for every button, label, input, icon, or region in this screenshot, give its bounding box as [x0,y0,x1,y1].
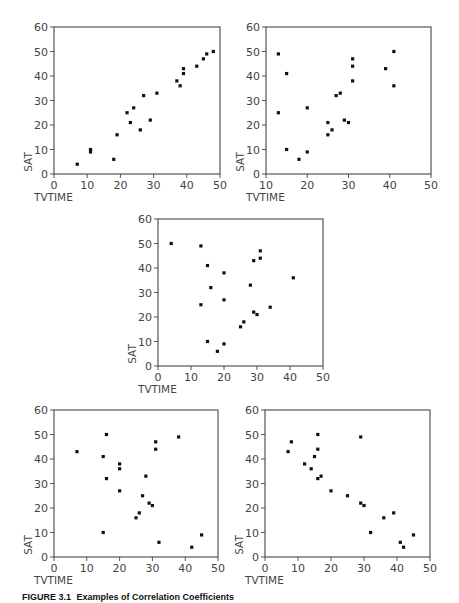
x-tick-label: 40 [390,562,404,575]
data-point [287,450,290,453]
data-point [320,475,323,478]
data-point [310,467,313,470]
data-point [316,448,319,451]
data-point [362,504,365,507]
figure-caption-text: Examples of Correlation Coefficients [77,592,235,602]
data-point [346,494,349,497]
data-point [316,477,319,480]
figure-number: FIGURE 3.1 [22,592,71,602]
data-point [369,531,372,534]
x-tick-label: 10 [291,562,305,575]
data-point [402,546,405,549]
x-axis-label: TVTIME [244,574,284,586]
y-tick-label: 0 [252,551,259,564]
data-point [316,433,319,436]
data-point [329,489,332,492]
data-point [392,511,395,514]
x-tick-label: 30 [357,562,371,575]
y-tick-label: 10 [245,527,259,540]
y-tick-label: 60 [245,404,259,417]
y-axis-label: SAT [233,535,245,555]
y-tick-label: 20 [245,502,259,515]
data-point [359,435,362,438]
data-point [382,516,385,519]
data-point [412,533,415,536]
x-tick-label: 20 [324,562,338,575]
plot-frame [265,410,430,557]
data-point [359,502,362,505]
y-tick-label: 30 [245,478,259,491]
figure-caption: FIGURE 3.1 Examples of Correlation Coeff… [22,592,234,602]
x-tick-label: 50 [423,562,437,575]
data-point [303,462,306,465]
data-point [399,541,402,544]
data-point [290,440,293,443]
y-tick-label: 50 [245,429,259,442]
y-tick-label: 40 [245,453,259,466]
data-point [313,455,316,458]
